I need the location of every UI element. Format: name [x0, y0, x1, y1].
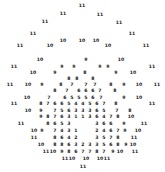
scatter-point-label: 10: [24, 96, 31, 101]
scatter-point-label: 3: [67, 122, 70, 127]
scatter-point-label: 6: [63, 96, 66, 101]
scatter-point-label: 9: [123, 129, 126, 134]
scatter-point-label: 2: [74, 136, 77, 141]
scatter-point-label: 7: [102, 150, 105, 155]
scatter-point-label: 6: [95, 102, 98, 107]
scatter-point-label: 8: [53, 89, 56, 94]
scatter-point-label: 11: [11, 102, 18, 107]
scatter-point-label: 9: [122, 96, 125, 101]
scatter-point-label: 3: [88, 109, 91, 114]
scatter-point-label: 8: [53, 136, 56, 141]
scatter-point-label: 10: [37, 58, 44, 63]
scatter-point-label: 7: [109, 136, 112, 141]
scatter-point-label: 10: [117, 150, 124, 155]
scatter-point-label: 11: [80, 165, 87, 170]
scatter-point-label: 11: [104, 157, 111, 162]
scatter-point-label: 7: [53, 115, 56, 120]
scatter-point-label: 3: [95, 143, 98, 148]
scatter-point-label: 6: [60, 115, 63, 120]
scatter-point-label: 3: [95, 136, 98, 141]
scatter-point-label: 7: [53, 109, 56, 114]
scatter-point-label: 7: [102, 102, 105, 107]
scatter-point-label: 9: [111, 150, 114, 155]
scatter-point-label: 6: [95, 115, 98, 120]
scatter-point-label: 9: [60, 150, 63, 155]
scatter-point-label: 6: [60, 136, 63, 141]
scatter-point-label: 7: [70, 83, 73, 88]
scatter-point-label: 6: [74, 150, 77, 155]
scatter-point-label: 10: [25, 83, 32, 88]
scatter-point-label: 8: [116, 136, 119, 141]
scatter-point-label: 6: [77, 89, 80, 94]
scatter-point-label: 3: [67, 129, 70, 134]
scatter-point-label: 6: [109, 129, 112, 134]
scatter-point-label: 7: [98, 89, 101, 94]
scatter-point-label: 11: [18, 122, 25, 127]
scatter-point-label: 4: [102, 129, 105, 134]
scatter-point-label: 7: [116, 129, 119, 134]
scatter-point-label: 10: [93, 39, 100, 44]
scatter-point-label: 10: [135, 129, 142, 134]
scatter-point-label: 9: [40, 129, 43, 134]
scatter-point-label: 11: [149, 65, 156, 70]
scatter-point-label: 3: [74, 109, 77, 114]
scatter-point-label: 10: [60, 39, 67, 44]
scatter-point-label: 6: [60, 102, 63, 107]
scatter-point-label: 6: [91, 96, 94, 101]
scatter-point-label: 8: [113, 89, 116, 94]
scatter-point-label: 9: [39, 109, 42, 114]
scatter-point-label: 10: [25, 109, 32, 114]
scatter-point-label: 7: [47, 96, 50, 101]
scatter-point-label: 5: [84, 96, 87, 101]
scatter-point-label: 11: [129, 32, 136, 37]
scatter-point-label: 11: [97, 13, 104, 18]
scatter-point-label: 8: [91, 77, 94, 82]
scatter-point-label: 7: [115, 109, 118, 114]
scatter-point-label: 10: [130, 71, 137, 76]
scatter-point-label: 1: [74, 129, 77, 134]
scatter-point-label: 5: [102, 109, 105, 114]
scatter-point-label: 11: [149, 102, 156, 107]
scatter-point-label: 10: [136, 83, 143, 88]
scatter-point-label: 11: [116, 21, 123, 26]
scatter-point-label: 7: [53, 129, 56, 134]
scatter-point-label: 9: [84, 58, 87, 63]
scatter-point-label: 8: [128, 109, 131, 114]
scatter-point-label: 11: [131, 136, 138, 141]
scatter-point-label: 8: [46, 115, 49, 120]
scatter-point-label: 5: [88, 102, 91, 107]
scatter-point-label: 9: [122, 122, 125, 127]
scatter-point-label: 7: [93, 83, 96, 88]
scatter-point-label: 6: [91, 89, 94, 94]
scatter-point-label: 7: [46, 102, 49, 107]
scatter-point-label: 5: [60, 122, 63, 127]
scatter-point-label: 9: [39, 115, 42, 120]
scatter-point-label: 7: [88, 150, 91, 155]
scatter-point-label: 11: [43, 150, 50, 155]
scatter-point-label: 9: [124, 143, 127, 148]
scatter-point-label: 7: [109, 115, 112, 120]
scatter-point-label: 11: [132, 150, 139, 155]
scatter-point-label: 11: [30, 32, 37, 37]
scatter-point-label: 3: [95, 122, 98, 127]
scatter-point-label: 11: [42, 20, 49, 25]
scatter-point-label: 6: [109, 122, 112, 127]
scatter-point-label: 2: [81, 143, 84, 148]
scatter-point-label: 10: [83, 157, 90, 162]
scatter-point-label: 3: [74, 143, 77, 148]
scatter-point-label: 1: [74, 115, 77, 120]
scatter-point-label: 5: [102, 143, 105, 148]
scatter-point-label: 10: [50, 150, 57, 155]
scatter-point-label: 8: [83, 71, 86, 76]
scatter-point-label: 5: [67, 102, 70, 107]
scatter-point-label: 9: [40, 83, 43, 88]
scatter-point-label: 10: [47, 44, 54, 49]
scatter-point-label: 10: [130, 143, 137, 148]
scatter-point-label: 7: [84, 83, 87, 88]
scatter-point-label: 6: [53, 122, 56, 127]
scatter-point-label: 4: [81, 102, 84, 107]
scatter-point-label: 7: [81, 150, 84, 155]
scatter-point-label: 10: [31, 129, 38, 134]
scatter-point-label: 8: [67, 150, 70, 155]
scatter-point-label: 8: [116, 115, 119, 120]
